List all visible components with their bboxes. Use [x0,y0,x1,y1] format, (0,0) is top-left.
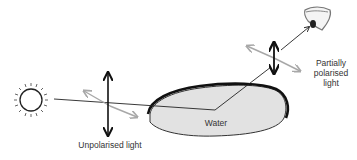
unpolarised-light-label: Unpolarised light [77,140,143,150]
partially-polarised-arrows [247,43,300,73]
partially-label-line3: light [306,78,356,88]
polarisation-diagram: Unpolarised light Water Partially polari… [0,0,357,160]
eye-icon [305,7,331,30]
water-label: Water [196,118,236,128]
partially-label-line1: Partially [306,58,356,68]
water-pond [148,84,288,137]
reflected-ray-upper [281,27,309,50]
diagram-canvas [0,0,357,160]
sun-icon [14,83,48,117]
partially-label-line2: polarised [306,68,356,78]
